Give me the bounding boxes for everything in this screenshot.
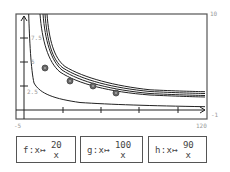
curve-g-outer	[40, 14, 205, 97]
y-tick-label-7-5: 7.5	[31, 34, 42, 41]
plot-canvas	[0, 0, 230, 130]
function-plot[interactable]: 7.5 5 2.5 -5 120 10 -1	[0, 0, 230, 130]
denominator-f: x	[54, 150, 59, 160]
y-max-label: 10	[210, 10, 217, 17]
fraction-h: 90 x	[183, 140, 194, 160]
function-box-f[interactable]: f:x↦ 20 x	[16, 136, 76, 163]
function-name-f: f:x↦	[23, 145, 46, 155]
y-tick-label-2-5: 2.5	[27, 88, 38, 95]
function-name-h: h:x↦	[155, 145, 178, 155]
function-box-g[interactable]: g:x↦ 100 x	[80, 136, 143, 163]
x-max-label: 120	[196, 122, 207, 129]
numerator-f: 20	[51, 140, 62, 150]
numerator-h: 90	[183, 140, 194, 150]
y-min-label: -1	[211, 111, 218, 118]
fraction-f: 20 x	[51, 140, 62, 160]
x-min-label: -5	[14, 122, 21, 129]
function-name-g: g:x↦	[87, 145, 110, 155]
denominator-g: x	[120, 150, 125, 160]
numerator-g: 100	[115, 140, 131, 150]
denominator-h: x	[186, 150, 191, 160]
curve-g-inner	[43, 14, 205, 96]
data-points	[42, 65, 119, 96]
function-box-h[interactable]: h:x↦ 90 x	[148, 136, 207, 163]
y-tick-label-5: 5	[31, 58, 35, 65]
fraction-g: 100 x	[115, 140, 131, 160]
